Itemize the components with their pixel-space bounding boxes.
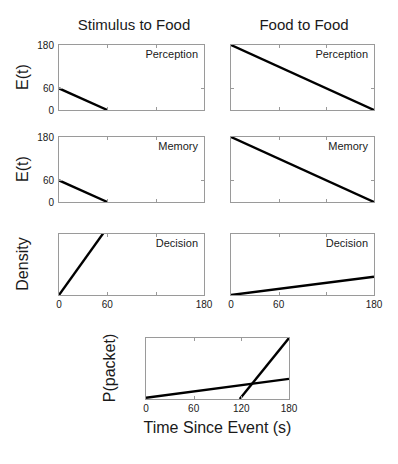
figure-canvas: Stimulus to FoodFood to FoodPerception06… [0, 0, 398, 464]
y-tick-label: 60 [32, 83, 54, 94]
x-tick-mark [279, 107, 280, 110]
y-axis-label-decision-stimulus-to-food: Density [13, 212, 31, 315]
y-tick-mark [371, 88, 374, 89]
x-tick-mark [107, 137, 108, 140]
x-tick-mark [326, 107, 327, 110]
x-tick-mark [107, 234, 108, 237]
y-tick-mark [231, 88, 234, 89]
x-tick-mark [156, 234, 157, 237]
x-tick-label: 60 [102, 299, 113, 310]
column-title-stimulus-to-food: Stimulus to Food [64, 16, 204, 33]
series-decision-rise [59, 234, 105, 295]
x-tick-label: 0 [143, 403, 149, 414]
x-tick-mark [326, 292, 327, 295]
plot-area-packet-probability [146, 338, 289, 399]
x-tick-label: 180 [366, 299, 383, 310]
y-axis-label-perception-stimulus-to-food: E(t) [13, 23, 31, 130]
x-tick-label: 60 [273, 299, 284, 310]
y-axis-label-packet-probability: P(packet) [100, 316, 118, 419]
x-tick-mark [156, 199, 157, 202]
y-tick-mark [59, 180, 62, 181]
column-title-food-to-food: Food to Food [234, 16, 374, 33]
series-steep-rise [240, 338, 289, 399]
axes-decision-food-to-food: Decision [230, 233, 375, 296]
panel-annotation-perception-stimulus-to-food: Perception [145, 48, 198, 60]
panel-annotation-memory-food-to-food: Memory [328, 140, 368, 152]
x-tick-label: 180 [281, 403, 298, 414]
axes-perception-stimulus-to-food: Perception [58, 44, 205, 111]
x-tick-mark [107, 45, 108, 48]
x-tick-mark [156, 107, 157, 110]
x-tick-mark [194, 396, 195, 399]
x-tick-mark [241, 338, 242, 341]
x-tick-mark [279, 234, 280, 237]
panel-annotation-perception-food-to-food: Perception [315, 48, 368, 60]
series-memory-decay [59, 180, 107, 202]
x-tick-label: 120 [233, 403, 250, 414]
x-tick-mark [279, 199, 280, 202]
y-axis-label-memory-stimulus-to-food: E(t) [13, 115, 31, 222]
x-tick-mark [279, 137, 280, 140]
x-tick-label: 180 [196, 299, 213, 310]
x-tick-mark [107, 199, 108, 202]
y-tick-mark [59, 88, 62, 89]
x-tick-mark [107, 107, 108, 110]
panel-annotation-decision-food-to-food: Decision [326, 237, 368, 249]
y-tick-label: 0 [32, 105, 54, 116]
series-shallow-rise [146, 379, 289, 398]
x-tick-mark [156, 45, 157, 48]
y-tick-mark [201, 88, 204, 89]
axes-perception-food-to-food: Perception [230, 44, 375, 111]
x-tick-mark [279, 45, 280, 48]
x-tick-mark [156, 292, 157, 295]
x-tick-mark [194, 338, 195, 341]
panel-annotation-memory-stimulus-to-food: Memory [158, 140, 198, 152]
y-tick-mark [201, 180, 204, 181]
x-tick-mark [326, 234, 327, 237]
y-tick-mark [231, 180, 234, 181]
x-tick-label: 0 [56, 299, 62, 310]
series-perception-decay [59, 88, 107, 110]
y-tick-label: 60 [32, 175, 54, 186]
series-decision-rise [231, 277, 374, 295]
panel-annotation-decision-stimulus-to-food: Decision [156, 237, 198, 249]
x-tick-mark [326, 199, 327, 202]
y-tick-label: 180 [32, 40, 54, 51]
y-tick-label: 180 [32, 132, 54, 143]
x-tick-label: 60 [188, 403, 199, 414]
x-tick-mark [279, 292, 280, 295]
x-tick-mark [156, 137, 157, 140]
x-tick-mark [326, 137, 327, 140]
x-axis-label: Time Since Event (s) [75, 419, 360, 437]
axes-memory-stimulus-to-food: Memory [58, 136, 205, 203]
y-tick-mark [371, 180, 374, 181]
axes-decision-stimulus-to-food: Decision [58, 233, 205, 296]
x-tick-mark [107, 292, 108, 295]
axes-memory-food-to-food: Memory [230, 136, 375, 203]
x-tick-mark [326, 45, 327, 48]
axes-packet-probability [145, 337, 290, 400]
x-tick-mark [241, 396, 242, 399]
x-tick-label: 0 [228, 299, 234, 310]
y-tick-label: 0 [32, 197, 54, 208]
